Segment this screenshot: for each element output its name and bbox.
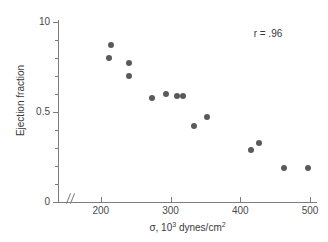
y-tick-label: 0: [6, 197, 50, 207]
y-tick-mark: [53, 202, 59, 203]
data-point: [126, 73, 132, 79]
data-point: [180, 93, 186, 99]
y-tick-label: 10: [6, 17, 50, 27]
x-axis-label-exponent-2: 2: [222, 221, 226, 228]
data-point: [305, 165, 311, 171]
y-axis-label: Ejection fraction: [15, 31, 26, 171]
data-point: [256, 140, 262, 146]
data-point: [106, 55, 112, 61]
data-point: [281, 165, 287, 171]
data-point-layer: [59, 22, 317, 202]
scatter-plot-figure: 00.510 200300400500 Ejection fraction σ,…: [0, 0, 328, 242]
data-point: [108, 42, 114, 48]
correlation-annotation: r = .96: [254, 28, 283, 39]
x-tick-label: 300: [151, 205, 191, 216]
data-point: [191, 123, 197, 129]
data-point: [248, 147, 254, 153]
x-tick-label: 200: [81, 205, 121, 216]
data-point: [163, 91, 169, 97]
x-axis-label-base: σ, 10: [149, 222, 172, 233]
x-axis-line: [58, 202, 317, 203]
x-axis-label-mid: dynes/cm: [176, 222, 222, 233]
x-tick-label: 500: [290, 205, 328, 216]
data-point: [149, 95, 155, 101]
y-tick-label: 0.5: [6, 107, 50, 117]
data-point: [204, 114, 210, 120]
x-tick-label: 400: [220, 205, 260, 216]
x-axis-label: σ, 103 dynes/cm2: [58, 222, 317, 234]
data-point: [126, 60, 132, 66]
data-point: [174, 93, 180, 99]
